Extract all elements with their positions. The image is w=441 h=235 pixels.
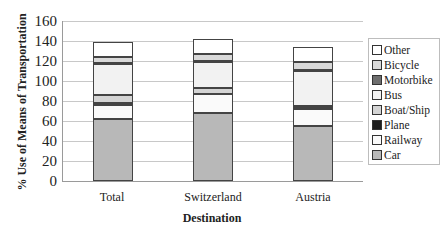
bar-segment-car	[193, 113, 233, 181]
bar-segment-car	[293, 126, 333, 181]
legend-label: Bus	[384, 89, 402, 101]
bar-segment-bus	[93, 64, 133, 95]
bar-segment-car	[93, 119, 133, 181]
legend-item-bicycle: Bicycle	[372, 57, 439, 72]
bar-segment-railway	[93, 105, 133, 119]
legend-item-motorbike: Motorbike	[372, 72, 439, 87]
y-tick: 140	[17, 34, 57, 49]
y-tick: 60	[17, 114, 57, 129]
bar-segment-other	[93, 42, 133, 57]
legend-label: Car	[384, 149, 401, 161]
plot-area	[62, 21, 363, 182]
y-tick: 80	[17, 94, 57, 109]
y-tick: 0	[17, 174, 57, 189]
legend-item-railway: Railway	[372, 132, 439, 147]
y-tick: 100	[17, 74, 57, 89]
bar-segment-other	[193, 39, 233, 54]
bar-segment-bus	[293, 71, 333, 106]
legend-label: Plane	[384, 119, 410, 131]
x-tick-austria: Austria	[263, 190, 363, 205]
bar-segment-bicycle	[293, 62, 333, 70]
bar-segment-boat-ship	[193, 88, 233, 94]
bar-segment-railway	[193, 94, 233, 113]
bar-segment-bicycle	[193, 54, 233, 61]
y-tick: 40	[17, 134, 57, 149]
legend-label: Boat/Ship	[384, 104, 430, 116]
legend-swatch-icon	[372, 135, 382, 145]
x-axis-label: Destination	[62, 211, 362, 226]
bar-austria	[293, 21, 333, 181]
legend-swatch-icon	[372, 90, 382, 100]
legend-label: Bicycle	[384, 59, 419, 71]
legend-swatch-icon	[372, 45, 382, 55]
legend-swatch-icon	[372, 150, 382, 160]
bar-segment-boat-ship	[293, 106, 333, 108]
legend-item-car: Car	[372, 147, 439, 162]
legend-item-bus: Bus	[372, 87, 439, 102]
bar-switzerland	[193, 21, 233, 181]
y-tick: 120	[17, 54, 57, 69]
y-tick: 20	[17, 154, 57, 169]
bar-segment-bicycle	[93, 57, 133, 63]
cropped-caption-strip	[0, 0, 441, 6]
legend-item-other: Other	[372, 42, 439, 57]
bar-segment-railway	[293, 109, 333, 126]
legend-swatch-icon	[372, 75, 382, 85]
legend-item-plane: Plane	[372, 117, 439, 132]
legend-label: Motorbike	[384, 74, 433, 86]
legend: OtherBicycleMotorbikeBusBoat/ShipPlaneRa…	[368, 38, 440, 165]
x-tick-total: Total	[62, 190, 162, 205]
x-tick-switzerland: Switzerland	[163, 190, 263, 205]
legend-label: Railway	[384, 134, 422, 146]
bar-total	[93, 21, 133, 181]
legend-swatch-icon	[372, 105, 382, 115]
y-tick: 160	[17, 14, 57, 29]
bar-segment-other	[293, 47, 333, 62]
legend-swatch-icon	[372, 60, 382, 70]
legend-swatch-icon	[372, 120, 382, 130]
bar-segment-boat-ship	[93, 95, 133, 103]
bar-segment-bus	[193, 62, 233, 88]
bar-segment-plane	[93, 103, 133, 105]
legend-label: Other	[384, 44, 410, 56]
legend-item-boat-ship: Boat/Ship	[372, 102, 439, 117]
